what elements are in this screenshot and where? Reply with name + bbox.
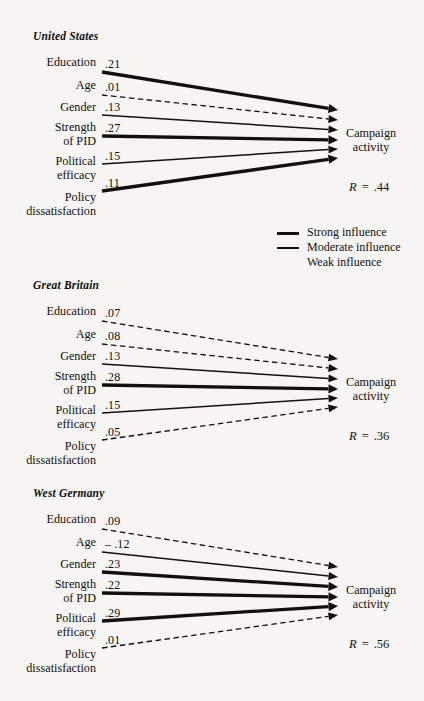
path-line (102, 399, 329, 413)
path-coefficient: .28 (105, 370, 120, 385)
predictor-label: Education (0, 305, 96, 319)
arrowhead (328, 135, 338, 144)
predictor-label: Gender (0, 558, 96, 572)
path-line (102, 344, 329, 368)
predictor-label: Policydissatisfaction (0, 440, 96, 467)
path-coefficient: .09 (105, 514, 120, 529)
path-coefficient: .23 (105, 557, 120, 572)
arrowhead (328, 354, 338, 362)
arrowhead (328, 582, 338, 591)
path-line (102, 150, 329, 164)
predictor-label: Strengthof PID (0, 578, 96, 605)
path-coefficient: .22 (105, 578, 120, 593)
predictor-label: Politicalefficacy (0, 404, 96, 431)
arrowhead (328, 602, 338, 611)
strong-line-swatch (277, 232, 299, 235)
path-coefficient: .15 (105, 149, 120, 164)
predictor-label: Age (0, 536, 96, 550)
arrowhead (328, 612, 338, 620)
path-coefficient: – .12 (105, 537, 130, 552)
path-coefficient: .07 (105, 306, 120, 321)
path-line (102, 115, 329, 129)
predictor-label: Gender (0, 350, 96, 364)
path-line (102, 552, 329, 576)
outcome-label: Campaignactivity (346, 583, 396, 611)
path-line (102, 607, 329, 621)
path-line (102, 593, 329, 597)
arrowhead (328, 384, 338, 393)
arrowhead (328, 104, 338, 113)
legend-label: Strong influence (307, 225, 387, 240)
arrowhead (328, 404, 338, 412)
path-line (102, 95, 329, 119)
path-coefficient: .29 (105, 606, 120, 621)
arrowhead (328, 115, 338, 123)
path-line (102, 72, 329, 108)
path-coefficient: .13 (105, 100, 120, 115)
outcome-label: Campaignactivity (346, 126, 396, 154)
predictor-label: Age (0, 79, 96, 93)
predictor-label: Politicalefficacy (0, 155, 96, 182)
path-line (102, 385, 329, 389)
path-coefficient: .21 (105, 57, 120, 72)
predictor-label: Education (0, 56, 96, 70)
arrowhead (328, 155, 338, 164)
path-line (102, 321, 329, 357)
arrowhead (328, 364, 338, 372)
predictor-label: Policydissatisfaction (0, 648, 96, 675)
path-coefficient: .11 (105, 176, 120, 191)
path-coefficient: .15 (105, 398, 120, 413)
path-line (102, 159, 329, 191)
predictor-label: Strengthof PID (0, 370, 96, 397)
arrowhead (328, 395, 338, 403)
predictor-label: Strengthof PID (0, 121, 96, 148)
arrowhead (328, 592, 338, 601)
arrowhead (328, 375, 338, 383)
figure-page: United StatesEducation.21Age.01Gender.13… (0, 0, 424, 701)
predictor-label: Policydissatisfaction (0, 191, 96, 218)
predictor-label: Education (0, 513, 96, 527)
path-coefficient: .01 (105, 633, 120, 648)
predictor-label: Politicalefficacy (0, 612, 96, 639)
outcome-label: Campaignactivity (346, 375, 396, 403)
predictor-label: Age (0, 328, 96, 342)
path-line (102, 529, 329, 565)
panel-west-germany: West GermanyEducation.09Age– .12Gender.2… (0, 487, 424, 701)
path-coefficient: .13 (105, 349, 120, 364)
arrowhead (328, 126, 338, 134)
path-line (102, 364, 329, 378)
panel-great-britain: Great BritainEducation.07Age.08Gender.13… (0, 279, 424, 509)
predictor-label: Gender (0, 101, 96, 115)
r-value: R=.56 (349, 637, 389, 652)
path-line (102, 572, 329, 586)
path-coefficient: .08 (105, 329, 120, 344)
path-coefficient: .05 (105, 425, 120, 440)
path-line (102, 408, 329, 440)
r-value: R=.36 (349, 429, 389, 444)
path-line (102, 136, 329, 140)
moderate-line-swatch (277, 247, 299, 249)
arrowhead (328, 146, 338, 154)
path-coefficient: .01 (105, 80, 120, 95)
arrowhead (328, 562, 338, 570)
r-value: R=.44 (349, 180, 389, 195)
path-coefficient: .27 (105, 121, 120, 136)
legend-label: Moderate influence (307, 240, 401, 255)
path-line (102, 616, 329, 648)
legend-label: Weak influence (307, 255, 382, 270)
arrowhead (328, 572, 338, 580)
